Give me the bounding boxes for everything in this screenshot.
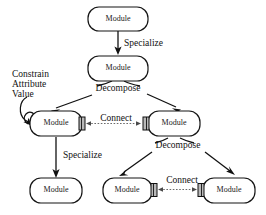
label-connect-bottom: Connect — [166, 175, 198, 185]
diagram-canvas: Module Module Module Module — [0, 0, 266, 215]
edge-specialize-top — [114, 31, 121, 55]
node-module-second-label: Module — [106, 63, 131, 72]
port-bottom-right-left[interactable] — [198, 184, 204, 197]
node-module-bottom-left-label: Module — [44, 185, 69, 194]
node-module-bottom-middle-label: Module — [115, 185, 140, 194]
node-module-right-middle-label: Module — [162, 118, 187, 127]
label-constrain-line1: Constrain — [12, 69, 49, 79]
port-bottom-middle-right[interactable] — [151, 184, 157, 197]
node-module-top-label: Module — [106, 14, 131, 23]
node-module-left-middle[interactable]: Module — [30, 111, 85, 136]
node-module-bottom-left[interactable]: Module — [30, 178, 82, 203]
node-module-right-middle[interactable]: Module — [143, 111, 200, 136]
label-specialize-top: Specialize — [124, 38, 163, 48]
label-decompose-right: Decompose — [156, 140, 201, 150]
port-left-middle-right[interactable] — [79, 117, 85, 130]
label-connect-middle: Connect — [100, 113, 132, 123]
label-decompose-top: Decompose — [96, 83, 141, 93]
node-module-bottom-right[interactable]: Module — [198, 178, 255, 203]
diagram-svg: Module Module Module Module — [0, 0, 266, 215]
port-right-middle-left[interactable] — [143, 117, 149, 130]
label-specialize-left: Specialize — [63, 150, 102, 160]
node-module-left-middle-label: Module — [44, 118, 69, 127]
node-module-second[interactable]: Module — [88, 56, 148, 81]
node-module-top[interactable]: Module — [88, 7, 148, 31]
node-module-bottom-middle[interactable]: Module — [103, 178, 157, 203]
edge-specialize-left — [52, 137, 59, 178]
edge-connect-bottom — [158, 187, 197, 191]
node-module-bottom-right-label: Module — [217, 185, 242, 194]
label-constrain-line2: Attribute — [12, 79, 46, 89]
label-constrain-line3: Value — [12, 89, 34, 99]
